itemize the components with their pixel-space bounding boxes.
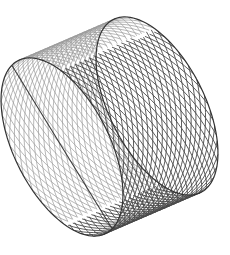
cylinder-lattice-drawing: [0, 0, 230, 255]
helix-line-back: [5, 130, 95, 208]
seam-line: [12, 65, 112, 229]
cylinder-wireframe-figure: [0, 0, 230, 255]
helix-line-back: [52, 214, 67, 221]
